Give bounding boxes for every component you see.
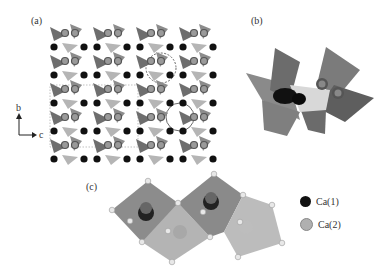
legend-ca1: Ca(1) <box>300 196 339 207</box>
axis-b-label: b <box>16 102 21 113</box>
legend-ca1-label: Ca(1) <box>316 196 339 207</box>
legend-ca2-label: Ca(2) <box>318 219 341 230</box>
ca2-swatch-icon <box>300 218 313 231</box>
axes-indicator <box>0 0 389 280</box>
legend-ca2: Ca(2) <box>300 218 341 231</box>
axis-c-label: c <box>39 129 43 140</box>
ca1-swatch-icon <box>300 196 311 207</box>
